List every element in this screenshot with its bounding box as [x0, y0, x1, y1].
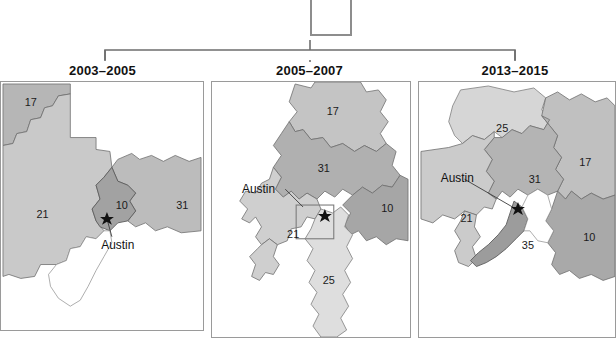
panel-title-2013-2015: 2013–2015 — [414, 63, 616, 78]
panel-title-2003-2005: 2003–2005 — [0, 63, 205, 78]
city-label-austin: Austin — [242, 182, 275, 196]
map-panel-2005-2007[interactable]: 17 31 10 21 25 Austin — [211, 81, 411, 338]
district-label-21: 21 — [37, 208, 49, 220]
district-label-31: 31 — [318, 162, 330, 174]
district-label-17: 17 — [327, 105, 339, 117]
map-panel-2003-2005[interactable]: 17 21 10 31 Austin — [0, 81, 204, 331]
city-label-austin: Austin — [441, 171, 474, 185]
district-label-21: 21 — [460, 212, 472, 224]
figure-root: 2003–2005 2005–2007 2013–2015 17 21 10 3… — [0, 0, 616, 342]
district-label-21: 21 — [287, 228, 299, 240]
district-label-10: 10 — [116, 199, 128, 211]
district-label-31: 31 — [176, 199, 188, 211]
district-label-25: 25 — [323, 274, 335, 286]
district-label-17: 17 — [25, 96, 37, 108]
district-label-35: 35 — [522, 239, 534, 251]
district-shape-10 — [546, 191, 615, 280]
district-label-25: 25 — [496, 122, 508, 134]
map-panel-2013-2015[interactable]: 25 17 31 10 21 35 Austin — [418, 81, 616, 338]
district-label-17: 17 — [579, 156, 591, 168]
district-label-10: 10 — [583, 231, 595, 243]
district-label-31: 31 — [529, 173, 541, 185]
inset-callout-box — [310, 0, 352, 36]
city-label-austin: Austin — [101, 238, 134, 252]
panel-title-2005-2007: 2005–2007 — [207, 63, 412, 78]
bracket — [0, 40, 616, 62]
district-label-10: 10 — [381, 202, 393, 214]
